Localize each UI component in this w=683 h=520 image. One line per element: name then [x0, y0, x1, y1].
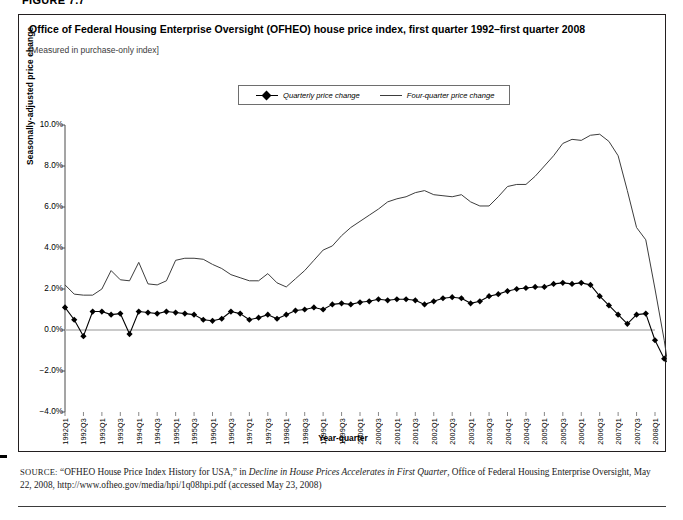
data-point-marker [532, 284, 538, 290]
data-point-marker [550, 281, 556, 287]
data-point-marker [274, 316, 280, 322]
data-point-marker [495, 291, 501, 297]
bottom-rule [18, 506, 666, 507]
source-note: SOURCE: “OFHEO House Price Index History… [20, 466, 660, 491]
data-point-marker [292, 307, 298, 313]
data-point-marker [366, 298, 372, 304]
data-point-marker [191, 312, 197, 318]
figure-label: FIGURE 7.7 [22, 0, 85, 6]
chart-canvas [19, 15, 667, 453]
data-point-marker [560, 280, 566, 286]
data-point-marker [486, 293, 492, 299]
figure-frame: Office of Federal Housing Enterprise Ove… [18, 14, 666, 452]
data-point-marker [348, 301, 354, 307]
data-point-marker [652, 337, 658, 343]
data-point-marker [302, 306, 308, 312]
data-point-marker [237, 311, 243, 317]
data-point-marker [421, 301, 427, 307]
data-point-marker [541, 284, 547, 290]
data-point-marker [246, 317, 252, 323]
data-point-marker [504, 288, 510, 294]
source-italic-title: Decline in House Prices Accelerates in F… [249, 467, 447, 477]
data-point-marker [431, 298, 437, 304]
data-point-marker [154, 311, 160, 317]
data-point-marker [99, 308, 105, 314]
data-point-marker [182, 311, 188, 317]
data-point-marker [145, 309, 151, 315]
data-point-marker [375, 296, 381, 302]
data-point-marker [136, 308, 142, 314]
data-point-marker [569, 281, 575, 287]
data-point-marker [523, 285, 529, 291]
series-line-quarterly [65, 283, 667, 369]
data-point-marker [329, 301, 335, 307]
data-point-marker [412, 297, 418, 303]
data-point-marker [255, 315, 261, 321]
data-point-marker [458, 295, 464, 301]
data-point-marker [449, 294, 455, 300]
data-point-marker [643, 311, 649, 317]
source-text-1: “OFHEO House Price Index History for USA… [60, 467, 249, 477]
data-point-marker [200, 317, 206, 323]
data-point-marker [385, 297, 391, 303]
data-point-marker [117, 311, 123, 317]
data-point-marker [311, 304, 317, 310]
data-point-marker [338, 300, 344, 306]
source-left-rule [0, 455, 7, 458]
data-point-marker [468, 300, 474, 306]
data-point-marker [394, 296, 400, 302]
data-point-marker [403, 296, 409, 302]
data-point-marker [80, 333, 86, 339]
source-prefix: SOURCE: [20, 467, 58, 477]
chart-plot-area: Seasonally-adjusted price change Year-qu… [19, 15, 667, 453]
data-point-marker [357, 299, 363, 305]
data-point-marker [90, 308, 96, 314]
data-point-marker [320, 306, 326, 312]
data-point-marker [477, 298, 483, 304]
data-point-marker [265, 312, 271, 318]
data-point-marker [209, 318, 215, 324]
data-point-marker [578, 280, 584, 286]
data-point-marker [173, 309, 179, 315]
data-point-marker [126, 331, 132, 337]
data-point-marker [514, 286, 520, 292]
data-point-marker [163, 308, 169, 314]
data-point-marker [440, 295, 446, 301]
data-point-marker [283, 312, 289, 318]
series-line-four-quarter [65, 134, 667, 402]
data-point-marker [108, 312, 114, 318]
